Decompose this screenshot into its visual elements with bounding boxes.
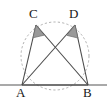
segment-ad (22, 25, 75, 85)
vertex-label-a: A (16, 86, 25, 99)
angle-marker-c-icon (33, 25, 44, 38)
vertex-label-b: B (83, 86, 92, 99)
vertex-label-d: D (69, 7, 78, 20)
segment-bc (36, 25, 88, 85)
circumcircle (21, 22, 89, 90)
vertex-label-c: C (29, 7, 38, 20)
geometry-figure: C D A B (0, 0, 107, 108)
